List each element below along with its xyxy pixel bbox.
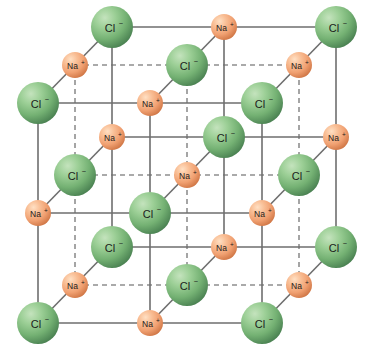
chloride-sphere — [166, 44, 208, 86]
ion-chloride[interactable]: Cl− — [203, 116, 245, 158]
ion-sodium[interactable]: Na+ — [174, 162, 200, 188]
sodium-sphere — [211, 14, 237, 40]
ion-chloride[interactable]: Cl− — [91, 226, 133, 268]
chloride-sphere — [241, 302, 283, 344]
ion-sodium[interactable]: Na+ — [211, 14, 237, 40]
chloride-sphere — [315, 226, 357, 268]
sodium-sphere — [137, 310, 163, 336]
ion-chloride[interactable]: Cl− — [315, 6, 357, 48]
ion-chloride[interactable]: Cl− — [166, 44, 208, 86]
sodium-sphere — [62, 272, 88, 298]
ion-chloride[interactable]: Cl− — [17, 82, 59, 124]
sodium-sphere — [323, 124, 349, 150]
sodium-sphere — [174, 162, 200, 188]
sodium-sphere — [62, 52, 88, 78]
crystal-lattice-figure: Cl−Na+Cl−Na+Cl−Na+Cl−Na+Cl−Na+Cl−Na+Cl−N… — [0, 0, 370, 357]
sodium-sphere — [249, 200, 275, 226]
ion-sodium[interactable]: Na+ — [323, 124, 349, 150]
sodium-sphere — [99, 124, 125, 150]
ion-sodium[interactable]: Na+ — [62, 52, 88, 78]
chloride-sphere — [91, 6, 133, 48]
chloride-sphere — [54, 154, 96, 196]
ion-sodium[interactable]: Na+ — [25, 200, 51, 226]
ion-chloride[interactable]: Cl− — [166, 264, 208, 306]
chloride-sphere — [17, 302, 59, 344]
ion-chloride[interactable]: Cl− — [129, 192, 171, 234]
sodium-sphere — [286, 272, 312, 298]
ion-sodium[interactable]: Na+ — [137, 90, 163, 116]
chloride-sphere — [166, 264, 208, 306]
chloride-sphere — [17, 82, 59, 124]
ion-chloride[interactable]: Cl− — [241, 302, 283, 344]
sodium-sphere — [286, 52, 312, 78]
ion-chloride[interactable]: Cl− — [17, 302, 59, 344]
sodium-sphere — [211, 234, 237, 260]
ion-chloride[interactable]: Cl− — [315, 226, 357, 268]
chloride-sphere — [241, 82, 283, 124]
chloride-sphere — [203, 116, 245, 158]
ion-chloride[interactable]: Cl− — [278, 154, 320, 196]
sodium-sphere — [137, 90, 163, 116]
chloride-sphere — [278, 154, 320, 196]
ion-sodium[interactable]: Na+ — [286, 52, 312, 78]
ion-sodium[interactable]: Na+ — [62, 272, 88, 298]
chloride-sphere — [315, 6, 357, 48]
ion-chloride[interactable]: Cl− — [241, 82, 283, 124]
chloride-sphere — [129, 192, 171, 234]
ion-layer: Cl−Na+Cl−Na+Cl−Na+Cl−Na+Cl−Na+Cl−Na+Cl−N… — [17, 6, 357, 344]
ion-sodium[interactable]: Na+ — [99, 124, 125, 150]
ion-sodium[interactable]: Na+ — [286, 272, 312, 298]
ion-chloride[interactable]: Cl− — [54, 154, 96, 196]
chloride-sphere — [91, 226, 133, 268]
ion-sodium[interactable]: Na+ — [211, 234, 237, 260]
lattice-diagram: Cl−Na+Cl−Na+Cl−Na+Cl−Na+Cl−Na+Cl−Na+Cl−N… — [0, 0, 370, 357]
ion-sodium[interactable]: Na+ — [249, 200, 275, 226]
ion-chloride[interactable]: Cl− — [91, 6, 133, 48]
sodium-sphere — [25, 200, 51, 226]
ion-sodium[interactable]: Na+ — [137, 310, 163, 336]
